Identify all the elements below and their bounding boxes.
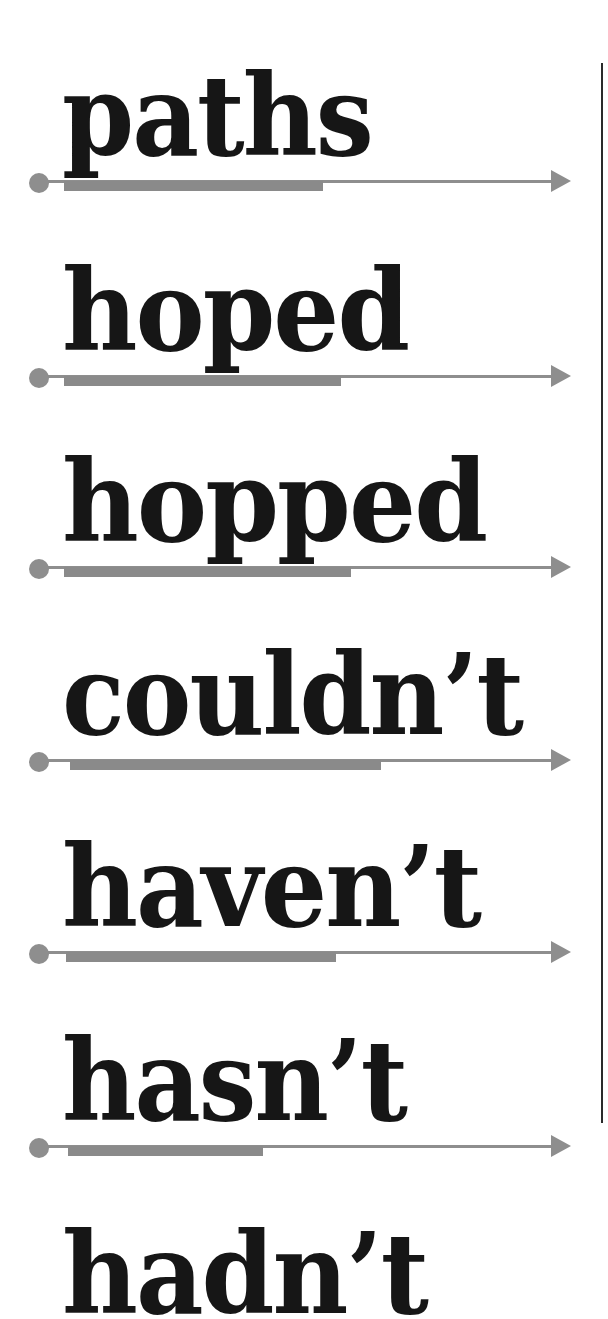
arrow-right-icon — [551, 749, 571, 771]
word-text: couldn’t — [62, 639, 522, 751]
progress-bar — [68, 1146, 263, 1156]
word-row: hoped — [0, 226, 600, 419]
progress-bar — [64, 567, 351, 577]
arrow-right-icon — [551, 556, 571, 578]
arrow-track — [0, 567, 600, 607]
word-text: hoped — [62, 255, 408, 367]
start-dot-icon — [29, 368, 49, 388]
word-text: hasn’t — [62, 1025, 406, 1137]
start-dot-icon — [29, 1138, 49, 1158]
word-text: paths — [62, 60, 372, 172]
arrow-track — [0, 1146, 600, 1186]
arrow-track — [0, 952, 600, 992]
word-row: haven’t — [0, 802, 600, 995]
word-row: couldn’t — [0, 610, 600, 803]
arrow-track — [0, 760, 600, 800]
arrow-right-icon — [551, 365, 571, 387]
progress-bar — [66, 952, 336, 962]
word-text: haven’t — [62, 831, 480, 943]
arrow-right-icon — [551, 941, 571, 963]
progress-bar — [64, 181, 323, 191]
start-dot-icon — [29, 752, 49, 772]
word-text: hopped — [62, 446, 486, 558]
vertical-divider — [601, 63, 603, 1123]
word-row: hopped — [0, 417, 600, 610]
start-dot-icon — [29, 944, 49, 964]
progress-bar — [70, 760, 381, 770]
arrow-track — [0, 376, 600, 416]
word-row: hadn’t — [0, 1189, 600, 1319]
progress-bar — [64, 376, 341, 386]
start-dot-icon — [29, 173, 49, 193]
arrow-track — [0, 181, 600, 221]
word-row: paths — [0, 31, 600, 224]
word-text: hadn’t — [62, 1218, 427, 1319]
arrow-right-icon — [551, 170, 571, 192]
start-dot-icon — [29, 559, 49, 579]
word-row: hasn’t — [0, 996, 600, 1189]
arrow-right-icon — [551, 1135, 571, 1157]
